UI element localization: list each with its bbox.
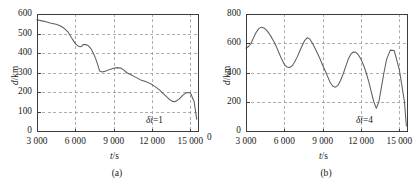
chart-a-y-tick-label: 300 — [0, 68, 32, 77]
chart-a-caption: (a) — [112, 168, 123, 178]
chart-panel-b: d/km t/s δi=4 0 (b) 02004006008003 0006 … — [209, 0, 418, 187]
chart-b-x-tick-label: 6 000 — [274, 137, 295, 146]
chart-b-x-tick-label: 3 000 — [236, 137, 257, 146]
chart-b-y-tick-label: 400 — [209, 68, 241, 77]
chart-a-y-tick-label: 0 — [0, 126, 32, 135]
chart-a-y-tick-label: 100 — [0, 107, 32, 116]
chart-b-x-axis-title: t/s — [319, 152, 328, 161]
chart-a-y-tick-label: 200 — [0, 87, 32, 96]
chart-a-x-tick-label: 6 000 — [65, 137, 86, 146]
chart-b-canvas — [209, 0, 418, 187]
chart-a-x-tick-label: 3 000 — [27, 137, 48, 146]
chart-a-x-axis-title: t/s — [110, 152, 119, 161]
chart-b-x-tick-label: 12 000 — [348, 137, 374, 146]
chart-b-y-tick-label: 800 — [209, 9, 241, 18]
figure-root: d/km t/s δi=1 (a) 01002003004005006003 0… — [0, 0, 418, 187]
chart-b-annotation: δi=4 — [356, 116, 373, 125]
chart-a-x-tick-label: 15 000 — [178, 137, 204, 146]
chart-b-caption: (b) — [320, 168, 331, 178]
chart-a-y-tick-label: 400 — [0, 48, 32, 57]
chart-a-y-tick-label: 500 — [0, 29, 32, 38]
chart-b-x-tick-label: 9 000 — [312, 137, 333, 146]
chart-b-y-tick-label: 0 — [209, 126, 241, 135]
chart-b-y-tick-label: 600 — [209, 39, 241, 48]
chart-a-annotation: δi=1 — [146, 116, 163, 125]
chart-a-y-tick-label: 600 — [0, 9, 32, 18]
chart-b-x-tick-label: 15 000 — [387, 137, 413, 146]
chart-a-x-tick-label: 9 000 — [103, 137, 124, 146]
chart-b-y-tick-label: 200 — [209, 97, 241, 106]
chart-a-x-tick-label: 12 000 — [139, 137, 165, 146]
chart-panel-a: d/km t/s δi=1 (a) 01002003004005006003 0… — [0, 0, 209, 187]
